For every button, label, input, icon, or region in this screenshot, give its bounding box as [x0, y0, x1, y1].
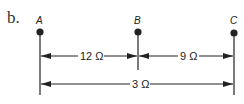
dim-ab-label: 12 Ω	[80, 50, 104, 62]
node-b-label: B	[134, 15, 141, 26]
dim-bc-label: 9 Ω	[180, 50, 197, 62]
resistance-diagram: A B C 12 Ω 9 Ω 3 Ω	[0, 0, 244, 104]
node-a-label: A	[35, 15, 43, 26]
dim-ac-label: 3 Ω	[132, 78, 149, 90]
node-c-label: C	[230, 15, 238, 26]
